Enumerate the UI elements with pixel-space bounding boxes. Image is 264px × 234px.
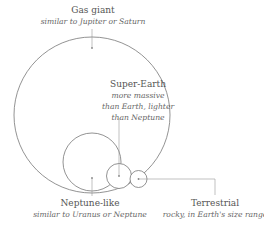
neptune-like-title: Neptune-like: [30, 198, 150, 209]
super-earth-label: Super-Earth more massive than Earth, lig…: [98, 79, 178, 123]
super-earth-description-line-3: than Neptune: [98, 112, 178, 123]
terrestrial-label: Terrestrial rocky, in Earth's size range: [160, 198, 264, 220]
super-earth-leader-dot: [118, 175, 120, 177]
terrestrial-description: rocky, in Earth's size range: [160, 209, 264, 220]
neptune-like-label: Neptune-like similar to Uranus or Neptun…: [30, 198, 150, 220]
gas-giant-label: Gas giant similar to Jupiter or Saturn: [38, 5, 148, 27]
super-earth-title: Super-Earth: [98, 79, 178, 90]
gas-giant-leader-dot: [91, 47, 93, 49]
terrestrial-leader-dot: [138, 178, 140, 180]
neptune-like-description: similar to Uranus or Neptune: [30, 209, 150, 220]
neptune-like-leader-dot: [91, 177, 93, 179]
gas-giant-title: Gas giant: [38, 5, 148, 16]
super-earth-description-line-2: than Earth, lighter: [98, 101, 178, 112]
terrestrial-title: Terrestrial: [160, 198, 264, 209]
gas-giant-description: similar to Jupiter or Saturn: [38, 16, 148, 27]
terrestrial-leader: [139, 179, 216, 195]
super-earth-description-line-1: more massive: [98, 90, 178, 101]
